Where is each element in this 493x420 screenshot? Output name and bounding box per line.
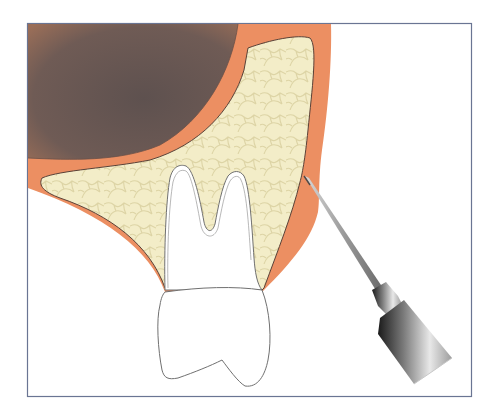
- illustration-canvas: [0, 0, 493, 420]
- dental-injection-figure: Dental injection diagram: needle inserte…: [0, 0, 493, 420]
